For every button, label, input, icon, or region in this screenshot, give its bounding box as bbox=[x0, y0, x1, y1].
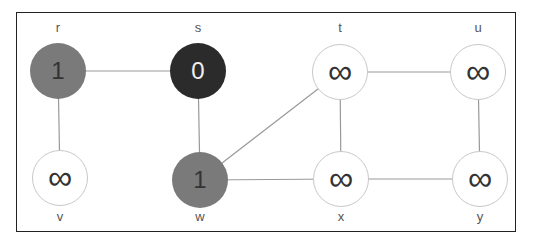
node-label-y: y bbox=[465, 210, 495, 224]
node-v: ∞ bbox=[32, 150, 88, 206]
node-s: 0 bbox=[170, 43, 226, 99]
node-s-distance: 0 bbox=[191, 59, 204, 83]
node-label-w: w bbox=[185, 210, 215, 224]
node-label-t: t bbox=[325, 21, 355, 35]
node-x: ∞ bbox=[313, 151, 369, 207]
node-label-r: r bbox=[43, 21, 73, 35]
node-r: 1 bbox=[30, 43, 86, 99]
node-label-u: u bbox=[463, 21, 493, 35]
node-u: ∞ bbox=[450, 44, 506, 100]
node-r-distance: 1 bbox=[51, 59, 64, 83]
node-y-distance: ∞ bbox=[468, 163, 492, 193]
node-x-distance: ∞ bbox=[329, 163, 353, 193]
node-t-distance: ∞ bbox=[328, 56, 352, 86]
node-w: 1 bbox=[172, 152, 228, 208]
node-label-v: v bbox=[45, 210, 75, 224]
node-label-s: s bbox=[183, 21, 213, 35]
node-w-distance: 1 bbox=[193, 168, 206, 192]
node-y: ∞ bbox=[452, 151, 508, 207]
node-t: ∞ bbox=[312, 44, 368, 100]
edges-layer bbox=[0, 0, 535, 248]
node-v-distance: ∞ bbox=[48, 162, 72, 192]
node-label-x: x bbox=[326, 210, 356, 224]
node-u-distance: ∞ bbox=[466, 56, 490, 86]
